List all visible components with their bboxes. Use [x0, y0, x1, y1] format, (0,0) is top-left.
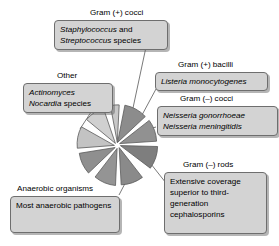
- callout-gram-negative-cocci[interactable]: Neisseria gonorrhoeae Neisseria meningit…: [157, 106, 278, 136]
- heading-other: Other: [57, 71, 77, 81]
- callout-line: Nocardia species: [29, 98, 107, 109]
- taxon-name: Listeria monocytogenes: [161, 77, 246, 86]
- heading-gram-positive-cocci: Gram (+) cocci: [90, 8, 143, 18]
- callout-line: Actinomyces: [29, 87, 107, 98]
- taxon-name: Neisseria gonorrhoeae: [163, 111, 245, 120]
- taxon-suffix: and: [117, 25, 133, 34]
- heading-anaerobic-organisms: Anaerobic organisms: [17, 184, 93, 194]
- callout-body: Extensive coverage superior to third-gen…: [170, 176, 261, 220]
- callout-other[interactable]: Actinomyces Nocardia species: [23, 83, 113, 113]
- callout-gram-negative-rods[interactable]: Extensive coverage superior to third-gen…: [164, 172, 267, 234]
- callout-body: Most anaerobic pathogens: [16, 200, 114, 211]
- callout-anaerobic-organisms[interactable]: Most anaerobic pathogens: [10, 196, 120, 233]
- heading-gram-positive-bacilli: Gram (+) bacilli: [178, 60, 233, 70]
- taxon-suffix: species: [61, 99, 91, 108]
- callout-gram-positive-cocci[interactable]: Staphylococcus and Streptococcus species: [54, 20, 168, 50]
- callout-line: Streptococcus species: [60, 35, 162, 46]
- taxon-name: Streptococcus: [60, 36, 111, 45]
- heading-gram-negative-cocci: Gram (–) cocci: [180, 94, 233, 104]
- callout-line: Listeria monocytogenes: [161, 76, 262, 87]
- taxon-suffix: species: [111, 36, 141, 45]
- callout-line: Staphylococcus and: [60, 24, 162, 35]
- taxon-name: Actinomyces: [29, 88, 75, 97]
- taxon-name: Neisseria meningitidis: [163, 122, 242, 131]
- callout-gram-positive-bacilli[interactable]: Listeria monocytogenes: [155, 72, 268, 91]
- callout-line: Neisseria meningitidis: [163, 121, 272, 132]
- callout-line: Neisseria gonorrhoeae: [163, 110, 272, 121]
- heading-gram-negative-rods: Gram (–) rods: [183, 160, 233, 170]
- taxon-name: Nocardia: [29, 99, 61, 108]
- figure-canvas: Gram (+) cocci Staphylococcus and Strept…: [0, 0, 279, 246]
- taxon-name: Staphylococcus: [60, 25, 117, 34]
